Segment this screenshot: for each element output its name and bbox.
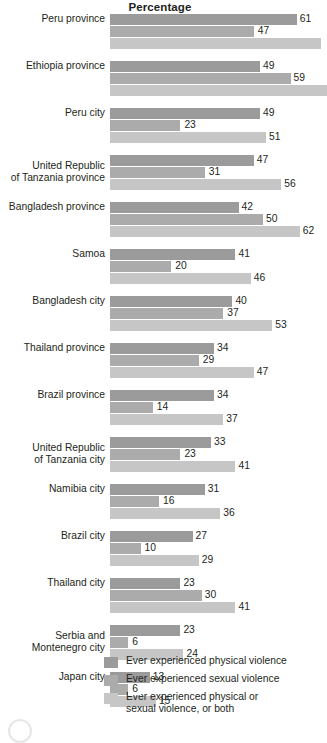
chart-row: Peru province6147 [0,14,320,61]
bar-value-label: 23 [180,624,194,636]
bar-track: 37 [110,308,320,319]
bar-value-label: 6 [128,636,141,648]
bar-series-1 [110,578,180,589]
row-label: United Republicof Tanzania city [0,442,105,465]
legend-swatch-icon [104,693,118,704]
row-label-line: Thailand city [0,577,105,589]
bar-series-3 [110,461,235,472]
bar-series-2 [110,590,202,601]
bar-series-3 [110,179,281,190]
bar-series-3 [110,273,251,284]
bar-series-2 [110,167,205,178]
bar-series-3 [110,414,223,425]
chart-row: Thailand city233041 [0,578,320,625]
bar-value-label: 16 [159,495,177,507]
bar-value-label: 33 [211,436,225,448]
bar-track: 34 [110,343,320,354]
bar-value-label: 36 [220,507,234,519]
chart-row: Brazil province341437 [0,390,320,437]
bar-track: 49 [110,61,320,72]
row-bars: 4959 [110,61,320,108]
row-label-line: Samoa [0,248,105,260]
legend-item[interactable]: Ever experienced physical violence [104,655,320,671]
row-label-line: Brazil city [0,530,105,542]
bar-value-label: 23 [180,119,198,131]
bar-value-label: 41 [235,601,249,613]
chart-row: Bangladesh city403753 [0,296,320,343]
bar-track: 41 [110,602,320,613]
bar-series-2 [110,26,254,37]
bar-track: 10 [110,543,320,554]
bar-value-label: 30 [202,589,216,601]
bar-value-label: 37 [223,413,237,425]
bar-track: 20 [110,261,320,272]
bar-track: 6 [110,637,320,648]
bar-series-1 [110,625,180,636]
bar-track: 31 [110,167,320,178]
bar-series-2 [110,355,199,366]
bar-value-label: 29 [199,554,213,566]
bar-track: 47 [110,26,320,37]
bar-series-2 [110,543,141,554]
row-label-line: Peru province [0,13,105,25]
bar-track: 50 [110,214,320,225]
row-bars: 233041 [110,578,320,625]
bar-value-label: 14 [153,401,171,413]
row-label-line: Thailand province [0,342,105,354]
chart-rows: Peru province6147Ethiopia province4959Pe… [0,14,320,719]
legend-label: Ever experienced sexual violence [126,673,320,685]
row-label-line: United Republic [0,442,105,454]
bar-track: 41 [110,249,320,260]
chart-row: Samoa412046 [0,249,320,296]
bar-value-label: 6 [128,683,141,695]
bar-track: 29 [110,555,320,566]
bar-track: 36 [110,508,320,519]
bar-series-3 [110,38,321,49]
bar-series-2 [110,261,171,272]
row-label: Thailand city [0,577,105,589]
bar-track: 31 [110,484,320,495]
chart-row: United Republicof Tanzania city332341 [0,437,320,484]
row-label-line: of Tanzania city [0,454,105,466]
bar-series-3 [110,508,220,519]
bar-value-label: 46 [251,272,265,284]
bar-track: 23 [110,120,320,131]
bar-value-label: 23 [180,577,194,589]
bar-track: 53 [110,320,320,331]
legend-label: Ever experienced physical orsexual viole… [126,691,320,716]
bar-track: 27 [110,531,320,542]
bar-track: 56 [110,179,320,190]
bar-track: 33 [110,437,320,448]
chart-row: Ethiopia province4959 [0,61,320,108]
row-bars: 473156 [110,155,320,202]
bar-series-2 [110,308,223,319]
row-label-line: Brazil province [0,389,105,401]
row-label: Brazil city [0,530,105,542]
bar-value-label: 51 [266,131,280,143]
bar-series-2 [110,214,263,225]
bar-track: 23 [110,449,320,460]
bar-series-1 [110,390,214,401]
bar-track: 23 [110,625,320,636]
row-label: Japan city [0,671,105,683]
legend-label-line: Ever experienced physical violence [126,655,320,667]
bar-track: 42 [110,202,320,213]
bar-value-label: 34 [214,389,228,401]
bar-track: 47 [110,155,320,166]
row-label: Peru city [0,107,105,119]
bar-series-2 [110,496,159,507]
bar-value-label: 23 [180,448,198,460]
bar-value-label: 47 [254,366,268,378]
bar-series-3 [110,555,199,566]
bar-track: 29 [110,355,320,366]
bar-track [110,38,320,49]
bar-series-3 [110,226,300,237]
row-label-line: Namibia city [0,483,105,495]
chart-row: Thailand province342947 [0,343,320,390]
row-label-line: Ethiopia province [0,60,105,72]
legend-swatch-icon [104,675,118,686]
bar-track: 46 [110,273,320,284]
bar-series-2 [110,449,180,460]
row-label: Bangladesh province [0,201,105,213]
row-label-line: Serbia and [0,630,105,642]
